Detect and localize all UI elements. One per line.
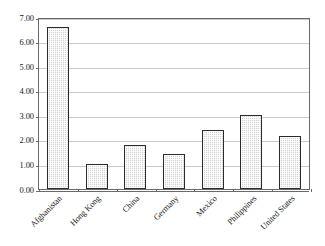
y-axis-tick-label: 4.00 — [2, 87, 34, 96]
bar-slot — [116, 19, 155, 189]
y-axis-tick-label: 6.00 — [2, 38, 34, 47]
bar-series — [39, 19, 309, 189]
bar-hong-kong[interactable] — [86, 164, 108, 189]
x-axis-tick-label: Mexico — [195, 194, 219, 218]
bar-slot — [193, 19, 232, 189]
y-axis-tick-label: 2.00 — [2, 136, 34, 145]
bar-philippines[interactable] — [240, 115, 262, 189]
bar-chart: 0.001.002.003.004.005.006.007.00 Afghani… — [0, 0, 325, 246]
bar-slot — [270, 19, 309, 189]
x-tickmark — [311, 189, 312, 192]
x-axis-tick-label: Afghanistan — [29, 194, 64, 229]
bar-united-states[interactable] — [279, 136, 301, 189]
bar-germany[interactable] — [163, 154, 185, 189]
y-axis-tick-label: 5.00 — [2, 63, 34, 72]
x-axis-tick-label: Philippines — [225, 194, 257, 226]
x-axis-tick-label: Germany — [152, 194, 180, 222]
x-axis-tick-label: Hong Kong — [69, 194, 103, 228]
y-axis-tick-label: 0.00 — [2, 186, 34, 195]
y-axis-tick-label: 3.00 — [2, 112, 34, 121]
bar-afghanistan[interactable] — [47, 27, 69, 189]
bar-china[interactable] — [124, 145, 146, 189]
bar-slot — [39, 19, 78, 189]
bar-slot — [232, 19, 271, 189]
bar-mexico[interactable] — [202, 130, 224, 189]
y-axis-tick-label: 7.00 — [2, 14, 34, 23]
y-axis-tick-label: 1.00 — [2, 161, 34, 170]
x-axis-tick-label: China — [121, 194, 141, 214]
bar-slot — [78, 19, 117, 189]
x-axis-tick-label: United States — [259, 194, 296, 231]
bar-slot — [155, 19, 194, 189]
x-axis-labels: AfghanistanHong KongChinaGermanyMexicoPh… — [38, 192, 310, 246]
plot-area — [38, 18, 310, 190]
